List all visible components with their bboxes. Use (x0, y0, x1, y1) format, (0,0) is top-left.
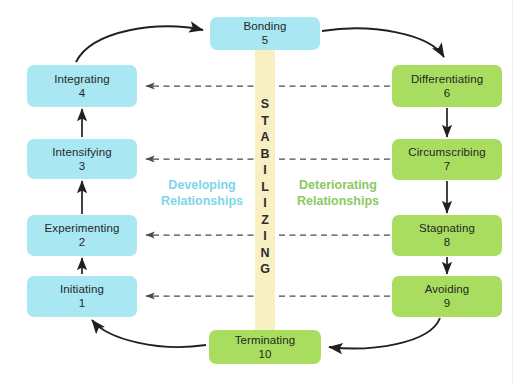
stage-stagnating-label: Stagnating (419, 222, 475, 235)
stage-bonding[interactable]: Bonding 5 (210, 17, 320, 50)
stabilizing-letter: A (260, 129, 269, 146)
stabilizing-letter: T (261, 113, 269, 130)
stage-initiating[interactable]: Initiating 1 (27, 276, 137, 317)
stabilizing-letter: Z (261, 212, 269, 229)
stage-bonding-label: Bonding (244, 20, 287, 33)
stage-stagnating-number: 8 (444, 236, 450, 249)
stage-intensifying[interactable]: Intensifying 3 (27, 139, 137, 179)
stage-experimenting[interactable]: Experimenting 2 (27, 215, 137, 256)
caption-developing-line1: Developing (168, 178, 235, 192)
stage-differentiating[interactable]: Differentiating 6 (392, 65, 502, 107)
caption-deteriorating-relationships: Deteriorating Relationships (279, 178, 397, 209)
stage-experimenting-number: 2 (79, 236, 85, 249)
stage-intensifying-number: 3 (79, 160, 85, 173)
stage-terminating[interactable]: Terminating 10 (209, 330, 321, 364)
stage-intensifying-label: Intensifying (52, 146, 111, 159)
relational-development-diagram: S T A B I L I Z I N G Bonding 5 Integrat… (0, 0, 528, 384)
stage-avoiding-number: 9 (444, 297, 450, 310)
arrow-terminating-to-initiating (92, 320, 206, 347)
stage-bonding-number: 5 (262, 34, 268, 47)
stage-initiating-number: 1 (79, 297, 85, 310)
stabilizing-letter: B (260, 146, 269, 163)
stage-avoiding-label: Avoiding (425, 283, 470, 296)
stage-initiating-label: Initiating (60, 283, 104, 296)
caption-deteriorating-line1: Deteriorating (299, 178, 377, 192)
stage-experimenting-label: Experimenting (45, 222, 120, 235)
stabilizing-letter: I (263, 195, 266, 212)
stabilizing-label: S T A B I L I Z I N G (255, 96, 275, 278)
stage-differentiating-label: Differentiating (411, 73, 483, 86)
stage-terminating-number: 10 (259, 348, 272, 361)
stage-avoiding[interactable]: Avoiding 9 (392, 276, 502, 317)
stabilizing-letter: I (263, 162, 266, 179)
stage-circumscribing[interactable]: Circumscribing 7 (392, 139, 502, 180)
stage-circumscribing-label: Circumscribing (408, 146, 485, 159)
arrow-integrating-to-bonding (76, 26, 203, 62)
caption-deteriorating-line2: Relationships (279, 194, 397, 210)
stabilizing-letter: G (260, 261, 270, 278)
stage-terminating-label: Terminating (235, 334, 296, 347)
caption-developing-line2: Relationships (152, 194, 252, 210)
stabilizing-letter: L (261, 179, 269, 196)
page-edge-rule (512, 0, 513, 384)
stage-integrating[interactable]: Integrating 4 (27, 65, 137, 107)
stage-integrating-number: 4 (79, 87, 85, 100)
stage-stagnating[interactable]: Stagnating 8 (392, 215, 502, 256)
stabilizing-letter: S (261, 96, 269, 113)
caption-developing-relationships: Developing Relationships (152, 178, 252, 209)
arrow-avoiding-to-terminating (329, 318, 440, 348)
stabilizing-letter: N (260, 245, 269, 262)
stage-differentiating-number: 6 (444, 87, 450, 100)
stage-circumscribing-number: 7 (444, 160, 450, 173)
stabilizing-letter: I (263, 228, 266, 245)
stage-integrating-label: Integrating (54, 73, 109, 86)
arrow-bonding-to-differentiating (322, 28, 444, 57)
